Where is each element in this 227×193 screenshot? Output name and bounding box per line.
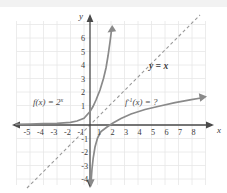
ytick-6: 6 — [81, 34, 85, 43]
y-axis-label: y — [78, 11, 83, 21]
ytick--3: -3 — [81, 162, 88, 171]
chart-figure: -5 -4 -3 -2 -1 1 2 3 4 5 6 7 8 6 5 4 3 2… — [0, 0, 227, 193]
ytick--1: -1 — [81, 135, 88, 144]
xtick-1: 1 — [97, 128, 101, 137]
xtick--2: -2 — [64, 128, 71, 137]
ytick--2: -2 — [81, 148, 88, 157]
ytick-3: 3 — [81, 75, 85, 84]
xtick--4: -4 — [37, 128, 44, 137]
xtick--3: -3 — [51, 128, 58, 137]
ytick-1: 1 — [81, 102, 85, 111]
xtick--5: -5 — [24, 128, 31, 137]
xtick-2: 2 — [110, 128, 114, 137]
xtick-4: 4 — [137, 128, 141, 137]
xtick-8: 8 — [191, 128, 195, 137]
graph-canvas: -5 -4 -3 -2 -1 1 2 3 4 5 6 7 8 6 5 4 3 2… — [0, 0, 227, 193]
inverse-log-curve — [91, 98, 201, 180]
ytick--4: -4 — [81, 175, 88, 184]
exponential-curve-arrowhead — [108, 25, 117, 33]
xtick-6: 6 — [164, 128, 168, 137]
x-axis-label: x — [216, 125, 221, 135]
xtick-7: 7 — [178, 128, 182, 137]
xtick-5: 5 — [151, 128, 155, 137]
xtick-3: 3 — [124, 128, 128, 137]
exponential-function-label: f(x) = 2x — [33, 97, 64, 107]
ytick-5: 5 — [81, 48, 85, 57]
identity-line-label: y = x — [148, 61, 168, 71]
ytick-2: 2 — [81, 88, 85, 97]
ytick-4: 4 — [81, 61, 85, 70]
